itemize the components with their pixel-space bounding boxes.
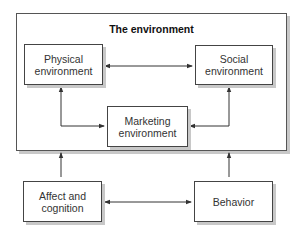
node-social-environment: Social environment: [195, 45, 273, 85]
node-label: Marketing environment: [119, 115, 177, 139]
node-affect-cognition: Affect and cognition: [23, 181, 102, 222]
node-label: Affect and cognition: [39, 190, 86, 214]
node-behavior: Behavior: [194, 181, 273, 222]
node-label: Social environment: [205, 53, 263, 77]
node-physical-environment: Physical environment: [24, 44, 103, 85]
arrow-social-marketing: [190, 87, 229, 126]
node-label: Behavior: [213, 196, 254, 208]
node-label: Physical environment: [35, 53, 93, 77]
node-marketing-environment: Marketing environment: [107, 106, 188, 147]
arrow-physical-marketing: [61, 87, 104, 126]
